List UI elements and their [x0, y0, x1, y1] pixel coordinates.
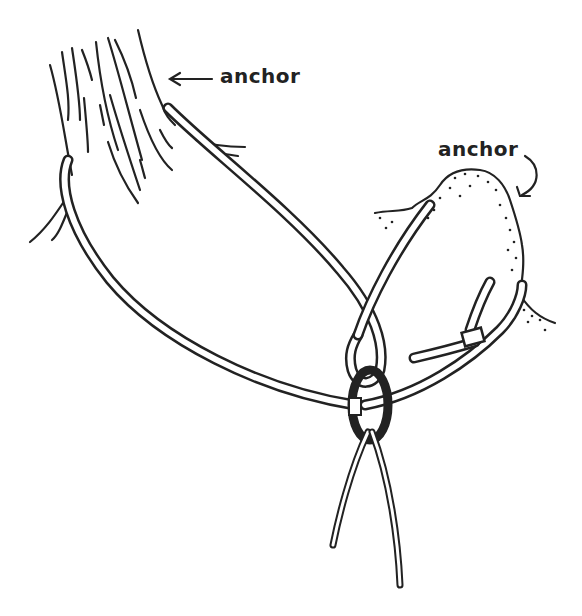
rock-anchor-label: anchor: [438, 137, 518, 161]
tree-trunk: [30, 30, 245, 242]
anchor-illustration: [0, 0, 582, 616]
anchor-diagram: anchor anchor: [0, 0, 582, 616]
tree-anchor-label: anchor: [220, 64, 300, 88]
arrow-icon: [170, 73, 212, 85]
rope-strands: [333, 432, 400, 585]
curved-arrow-icon: [517, 156, 537, 196]
